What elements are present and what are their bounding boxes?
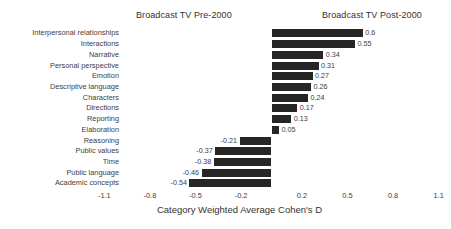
- x-tick-label: 0.5: [342, 192, 352, 199]
- bar-row: Directions0.17: [0, 103, 451, 114]
- category-label: Time: [103, 158, 119, 165]
- category-label: Elaboration: [82, 126, 119, 133]
- bar: [272, 83, 312, 91]
- bar: [240, 137, 272, 145]
- x-tick-label: -0.2: [235, 192, 248, 199]
- category-label: Narrative: [89, 51, 119, 58]
- category-label: Personal perspective: [50, 62, 119, 69]
- bar-row: Reasoning-0.21: [0, 135, 451, 146]
- bar-row: Characters0.24: [0, 92, 451, 103]
- category-label: Interpersonal relationships: [32, 30, 119, 37]
- chart-container: Broadcast TV Pre-2000 Broadcast TV Post-…: [0, 0, 451, 229]
- bar-row: Time-0.38: [0, 157, 451, 168]
- bar-value-label: -0.54: [171, 180, 187, 187]
- category-label: Public values: [75, 148, 119, 155]
- category-label: Emotion: [92, 73, 119, 80]
- bar: [272, 104, 298, 112]
- category-label: Academic concepts: [55, 180, 119, 187]
- bar-value-label: 0.27: [315, 73, 329, 80]
- bar-row: Interactions0.55: [0, 39, 451, 50]
- category-label: Characters: [83, 94, 119, 101]
- bar-value-label: -0.46: [183, 169, 199, 176]
- bar: [214, 158, 272, 166]
- plot-area: Interpersonal relationships0.6Interactio…: [0, 28, 451, 190]
- bar-row: Academic concepts-0.54: [0, 178, 451, 189]
- bar-row: Elaboration0.05: [0, 124, 451, 135]
- panel-title-pre-2000: Broadcast TV Pre-2000: [136, 10, 232, 20]
- bar: [189, 179, 271, 187]
- bar: [202, 169, 272, 177]
- category-label: Reporting: [87, 115, 119, 122]
- panel-title-post-2000: Broadcast TV Post-2000: [322, 10, 422, 20]
- x-tick-label: 1.1: [434, 192, 444, 199]
- bar: [272, 126, 280, 134]
- bar: [272, 72, 313, 80]
- bar-row: Descriptive language0.26: [0, 82, 451, 93]
- bar-value-label: 0.05: [282, 126, 296, 133]
- x-tick-label: -1.1: [98, 192, 111, 199]
- bar: [272, 115, 292, 123]
- x-tick-label: -0.8: [144, 192, 157, 199]
- bar: [272, 51, 324, 59]
- bar-row: Personal perspective0.31: [0, 60, 451, 71]
- bar: [272, 62, 319, 70]
- x-axis-title: Category Weighted Average Cohen's D: [0, 204, 451, 215]
- bar: [272, 29, 363, 37]
- category-label: Directions: [86, 105, 119, 112]
- category-label: Public language: [66, 169, 119, 176]
- bar-value-label: 0.6: [365, 30, 375, 37]
- bar-value-label: -0.37: [196, 148, 212, 155]
- x-tick-label: -0.5: [189, 192, 202, 199]
- bar-row: Interpersonal relationships0.6: [0, 28, 451, 39]
- bar-value-label: 0.24: [310, 94, 324, 101]
- bar: [272, 94, 308, 102]
- category-label: Reasoning: [84, 137, 119, 144]
- bar-row: Public language-0.46: [0, 167, 451, 178]
- bar-value-label: 0.17: [300, 105, 314, 112]
- bar-value-label: 0.13: [294, 115, 308, 122]
- bar-value-label: -0.21: [221, 137, 237, 144]
- bar: [215, 147, 271, 155]
- bar-value-label: -0.38: [195, 158, 211, 165]
- bar-value-label: 0.31: [321, 62, 335, 69]
- bar-row: Emotion0.27: [0, 71, 451, 82]
- bar-row: Narrative0.34: [0, 49, 451, 60]
- x-tick-label: 0.8: [388, 192, 398, 199]
- bar-row: Public values-0.37: [0, 146, 451, 157]
- x-tick-label: 0.2: [297, 192, 307, 199]
- bar-value-label: 0.55: [358, 40, 372, 47]
- bar-value-label: 0.26: [314, 83, 328, 90]
- x-axis: Category Weighted Average Cohen's D -1.1…: [0, 190, 451, 229]
- bar: [272, 40, 356, 48]
- category-label: Interactions: [81, 40, 119, 47]
- bar-value-label: 0.34: [326, 51, 340, 58]
- category-label: Descriptive language: [50, 83, 119, 90]
- bar-row: Reporting0.13: [0, 114, 451, 125]
